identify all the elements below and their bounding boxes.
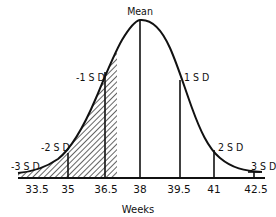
x-tick-label: 38 [133,183,146,195]
shaded-region [18,42,122,178]
mean-label: Mean [127,5,153,17]
x-tick-label: 42.5 [244,183,267,195]
sd-label-minus2: -2 S D [41,141,70,153]
sd-label-plus3: 3 S D [251,160,276,172]
x-tick-label: 36.5 [94,183,117,195]
sd-label-minus1: -1 S D [76,71,105,83]
x-tick-label: 35 [61,183,74,195]
normal-distribution-chart: Mean -1 S D 1 S D -2 S D 2 S D -3 S D 3 … [0,0,276,217]
x-tick-label: 39.5 [167,183,190,195]
x-axis-title: Weeks [122,204,155,215]
sd-label-plus2: 2 S D [218,141,243,153]
x-tick-label: 41 [207,183,220,195]
sd-label-plus1: 1 S D [184,71,209,83]
sd-label-minus3: -3 S D [11,160,40,172]
x-tick-label: 33.5 [25,183,48,195]
